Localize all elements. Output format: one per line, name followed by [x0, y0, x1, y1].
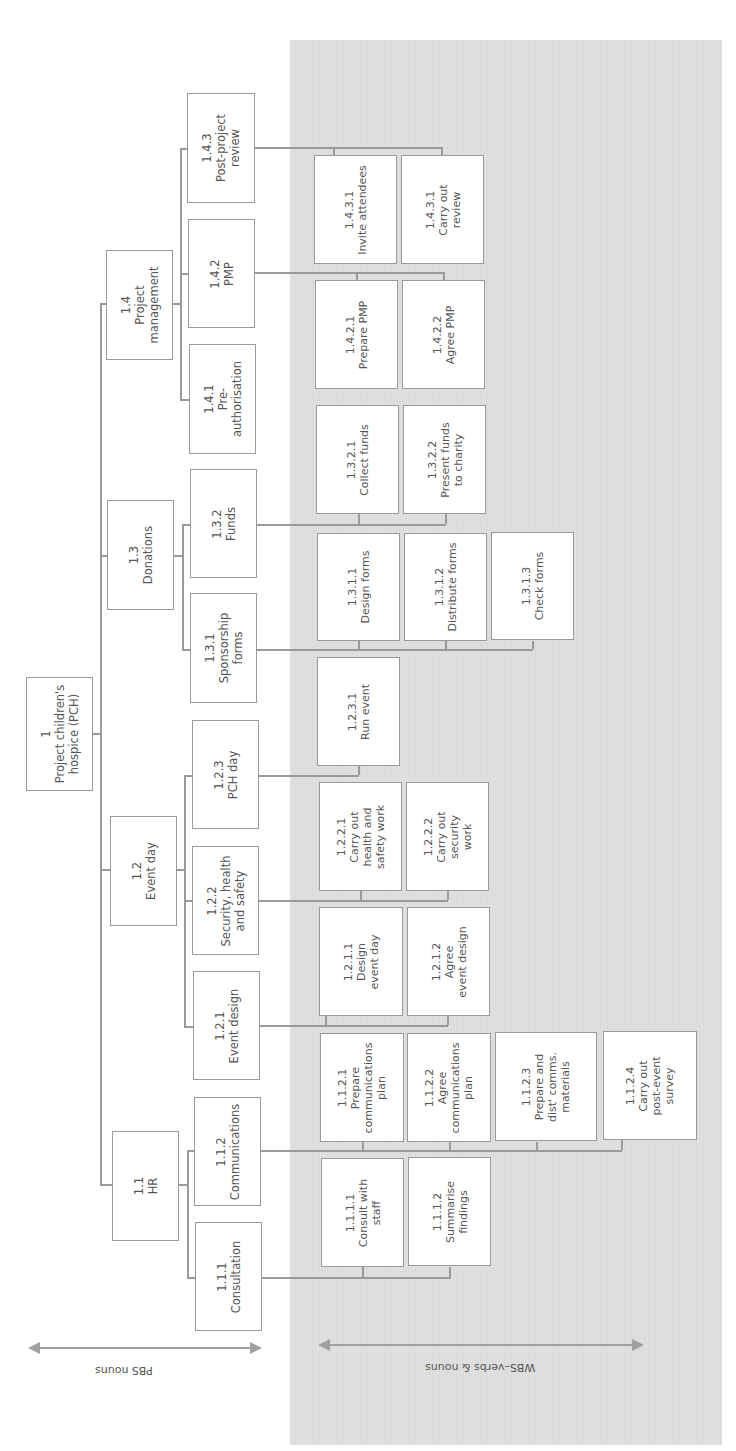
node-code: 1.1.2.2: [423, 1068, 436, 1106]
connector: [100, 869, 110, 871]
node-text: 1.3.2.1 Collect funds: [345, 424, 371, 496]
node-code: 1.2.2.2: [422, 817, 435, 855]
node-code: 1.2.2.1: [335, 817, 348, 855]
connector: [447, 1016, 449, 1025]
connector: [447, 891, 449, 900]
node-text: 1.2.3.1 Run event: [346, 684, 372, 740]
node-code: 1.2.3.1: [346, 692, 359, 730]
node-label: Design event day: [355, 934, 381, 989]
node-label: Prepare and dist' comms. materials: [533, 1051, 572, 1121]
node-code: 1.4.2.1: [344, 315, 357, 353]
connector: [180, 273, 188, 275]
node-label: Collect funds: [358, 424, 371, 496]
node-label: Carry out health and safety work: [348, 804, 387, 868]
node-label: Agree communications plan: [436, 1042, 475, 1133]
wbs-node-1-2-2-1: 1.2.2.1 Carry out health and safety work: [319, 782, 402, 891]
node-code: 1.4.2: [208, 259, 222, 288]
node-label: Present funds to charity: [438, 422, 464, 497]
node-code: 1.3: [127, 546, 141, 564]
node-label: Consultation: [229, 1240, 243, 1312]
node-text: 1.1 HR: [132, 1177, 160, 1195]
node-code: 1.2: [130, 862, 144, 880]
node-code: 1.4.1: [202, 384, 216, 413]
node-label: Security, health and safety: [219, 855, 247, 946]
wbs-node-1-3-1-1: 1.3.1.1 Design forms: [317, 533, 400, 641]
connector: [362, 1142, 364, 1150]
connector: [358, 766, 360, 775]
node-text: 1.2.2.1 Carry out health and safety work: [335, 804, 387, 868]
node-text: 1.4.2.2 Agree PMP: [431, 305, 457, 364]
wbs-node-1-1-2-1: 1.1.2.1 Prepare communications plan: [320, 1033, 404, 1142]
connector: [262, 1277, 451, 1279]
pbs-node-1-2-3: 1.2.3 PCH day: [192, 720, 259, 829]
pbs-node-1-3-1: 1.3.1 Sponsorship forms: [190, 593, 257, 703]
node-code: 1.3.1.2: [433, 568, 446, 606]
node-text: 1.2.1.2 Agree event design: [429, 926, 468, 997]
pbs-node-1-1-1: 1.1.1 Consultation: [195, 1222, 262, 1331]
connector: [182, 524, 190, 526]
node-text: 1.1.2.4 Carry out post-event survey: [624, 1056, 676, 1115]
wbs-node-1-4-2-2: 1.4.2.2 Agree PMP: [402, 280, 485, 389]
wbs-node-1-1-2-2: 1.1.2.2 Agree communications plan: [407, 1033, 491, 1142]
pbs-node-1-1: 1.1 HR: [112, 1131, 179, 1241]
connector: [255, 147, 442, 149]
connector: [358, 641, 360, 649]
connector: [100, 555, 107, 557]
node-code: 1.1.1.2: [430, 1192, 443, 1230]
node-code: 1.3.1: [203, 633, 217, 662]
connector: [257, 649, 533, 651]
node-text: 1.2.2.2 Carry out security work: [422, 811, 474, 862]
wbs-node-1-4-2-1: 1.4.2.1 Prepare PMP: [315, 280, 398, 389]
pbs-node-1-3-2: 1.3.2 Funds: [190, 469, 257, 578]
pbs-node-1-4-2: 1.4.2 PMP: [188, 219, 255, 328]
node-label: PMP: [222, 262, 236, 286]
node-text: 1.1.2.3 Prepare and dist' comms. materia…: [520, 1051, 572, 1121]
node-text: 1.2.3 PCH day: [212, 750, 240, 798]
node-label: HR: [146, 1178, 160, 1195]
connector: [445, 514, 447, 524]
node-code: 1.4.2.2: [431, 315, 444, 353]
node-label: Invite attendees: [356, 165, 369, 255]
connector: [180, 399, 189, 401]
connector: [180, 148, 187, 150]
node-code: 1.1.2.1: [336, 1068, 349, 1106]
node-label: Distribute forms: [446, 542, 459, 631]
connector: [100, 1184, 112, 1186]
pbs-double-arrow-icon: [36, 1347, 254, 1349]
node-text: 1.2.1.1 Design event day: [342, 934, 381, 989]
node-text: 1.3.1 Sponsorship forms: [203, 613, 245, 683]
level3-spine: [182, 524, 184, 650]
connector: [360, 891, 362, 900]
node-label: Summarise findings: [443, 1180, 469, 1242]
node-label: Consult with staff: [356, 1178, 382, 1246]
node-label: Prepare communications plan: [349, 1042, 388, 1133]
connector: [621, 1139, 623, 1150]
node-label: Check forms: [533, 552, 546, 621]
node-label: Agree PMP: [444, 305, 457, 364]
connector: [182, 649, 190, 651]
node-text: 1.4 Project management: [119, 266, 161, 343]
connector: [184, 900, 192, 902]
node-text: 1.4.2.1 Prepare PMP: [344, 300, 370, 369]
node-label: Prepare PMP: [357, 300, 370, 369]
node-label: PCH day: [226, 750, 240, 798]
node-text: 1.2.2 Security, health and safety: [205, 855, 247, 946]
pbs-node-1-1-2: 1.1.2 Communications: [194, 1097, 261, 1206]
node-text: 1.1.1 Consultation: [215, 1240, 243, 1312]
node-text: 1.3.1.1 Design forms: [346, 551, 372, 624]
connector: [445, 641, 447, 649]
node-text: 1.1.2 Communications: [214, 1103, 242, 1200]
wbs-node-1-3-2-2: 1.3.2.2 Present funds to charity: [403, 405, 486, 514]
connector: [187, 1277, 195, 1279]
node-code: 1.4.3: [200, 133, 214, 162]
node-label: Carry out post-event survey: [637, 1056, 676, 1115]
connector: [333, 147, 335, 155]
node-text: 1.4.2 PMP: [208, 259, 236, 288]
node-label: Event day: [144, 842, 158, 900]
pbs-node-1-2: 1.2 Event day: [110, 816, 177, 926]
pbs-node-1-2-1: 1.2.1 Event design: [193, 971, 260, 1080]
node-label: Sponsorship forms: [217, 613, 245, 683]
node-label: Post-project review: [214, 114, 242, 182]
connector: [259, 900, 448, 902]
node-label: Pre- authorisation: [216, 361, 244, 437]
